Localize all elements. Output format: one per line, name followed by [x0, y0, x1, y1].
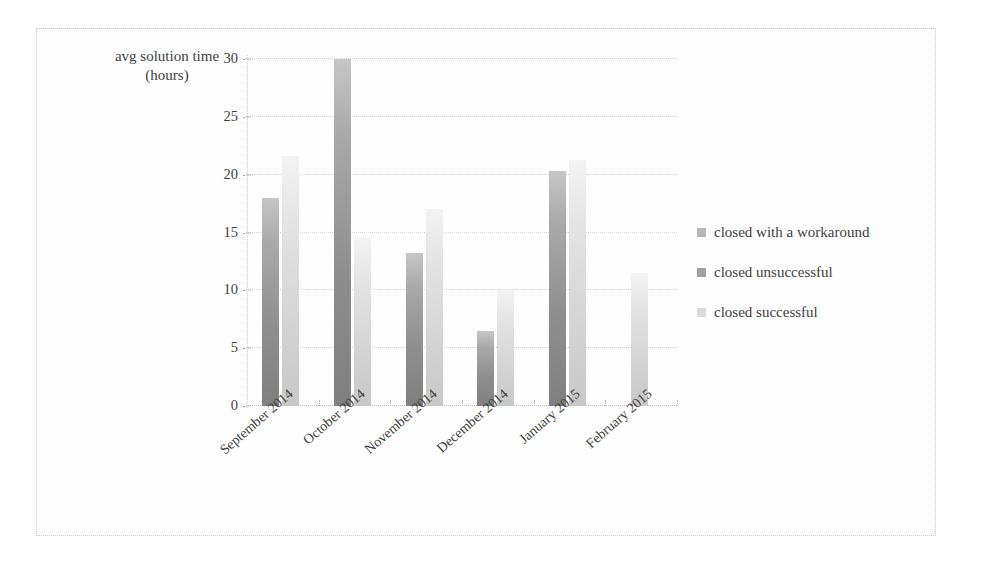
- legend-item[interactable]: closed successful: [697, 304, 947, 321]
- bar: [282, 156, 299, 406]
- bar-group: [247, 59, 319, 406]
- x-tick-mark: [677, 400, 678, 406]
- chart-legend: closed with a workaroundclosed unsuccess…: [697, 224, 947, 344]
- legend-label: closed successful: [714, 304, 818, 321]
- legend-swatch-icon: [697, 228, 706, 237]
- bar: [569, 160, 586, 406]
- chart-frame: avg solution time (hours) 051015202530 S…: [36, 28, 936, 536]
- y-tick-label: 5: [231, 339, 238, 356]
- y-tick-label: 0: [231, 397, 238, 414]
- legend-swatch-icon: [697, 268, 706, 277]
- legend-item[interactable]: closed with a workaround: [697, 224, 947, 241]
- bar: [262, 198, 279, 406]
- legend-label: closed unsuccessful: [714, 264, 833, 281]
- bar: [549, 171, 566, 406]
- y-tick-label: 20: [224, 166, 239, 183]
- legend-swatch-icon: [697, 308, 706, 317]
- y-tick-label: 10: [224, 282, 239, 299]
- y-tick-label: 25: [224, 108, 239, 125]
- legend-item[interactable]: closed unsuccessful: [697, 264, 947, 281]
- bar: [406, 253, 423, 406]
- legend-label: closed with a workaround: [714, 224, 869, 241]
- y-tick-label: 15: [224, 224, 239, 241]
- y-tick-label: 30: [224, 50, 239, 67]
